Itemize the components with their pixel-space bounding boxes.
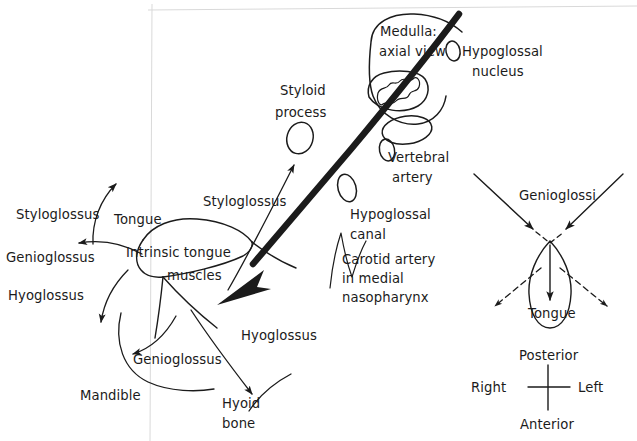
genioglossi-label: Genioglossi — [519, 188, 596, 203]
orientation-key: Posterior Right Left Anterior — [471, 348, 603, 432]
genioglossi-dashed-arrow-right — [560, 268, 607, 306]
hypoglossal-nerve-head — [217, 270, 271, 305]
tongue-label: Tongue — [113, 212, 162, 227]
intrinsic-muscles-label-line2: muscles — [167, 268, 222, 283]
hyoid-bone-label-line2: bone — [222, 416, 255, 431]
orientation-right-label: Right — [471, 380, 506, 395]
styloglossus-left-label: Styloglossus — [16, 207, 99, 222]
hypoglossal-canal-oval — [334, 172, 359, 204]
carotid-label-line2: in medial — [342, 271, 404, 286]
vertebral-artery-label-line2: artery — [392, 170, 433, 185]
genioglossi-inset: Genioglossi Tongue — [474, 174, 623, 328]
carotid-label-line3: nasopharynx — [342, 290, 429, 305]
inferior-olive-oval — [380, 113, 433, 148]
genioglossus-bottom-label: Genioglossus — [133, 352, 222, 367]
genioglossi-dashed-arrow-left — [495, 268, 541, 306]
vertebral-artery-label-line1: Vertebral — [388, 150, 449, 165]
styloglossus-right-label: Styloglossus — [203, 194, 286, 209]
intrinsic-muscles-label-line1: Intrinsic tongue — [126, 245, 231, 260]
hypoglossal-nucleus-oval — [444, 40, 462, 62]
hypoglossal-canal-label-line1: Hypoglossal — [350, 207, 431, 222]
styloid-process-label-line1: Styloid — [280, 83, 326, 98]
scan-edge-top — [148, 6, 637, 10]
diagram-svg: Medulla: axial view Hypoglossal nucleus … — [0, 0, 637, 441]
carotid-label-line1: Carotid artery — [342, 252, 435, 267]
tongue-inset-label: Tongue — [527, 306, 576, 321]
medulla-label-line1: Medulla: — [380, 24, 437, 39]
genioglossus-left-label: Genioglossus — [6, 250, 95, 265]
hypoglossal-nucleus-label-line1: Hypoglossal — [462, 44, 543, 59]
styloid-process-label-line2: process — [275, 105, 326, 120]
hyoglossus-left-label: Hyoglossus — [8, 288, 84, 303]
scan-edge-lines — [148, 4, 637, 441]
orientation-anterior-label: Anterior — [520, 417, 575, 432]
mandible-label: Mandible — [80, 388, 141, 403]
hypoglossal-canal-label-line2: canal — [350, 227, 386, 242]
diagram-canvas: Medulla: axial view Hypoglossal nucleus … — [0, 0, 637, 441]
orientation-left-label: Left — [578, 380, 603, 395]
genioglossus-arrow-bottom — [133, 316, 176, 354]
hyoglossus-right-label: Hyoglossus — [241, 328, 317, 343]
hyoid-bone-label-line1: Hyoid — [222, 396, 260, 411]
hypoglossal-nucleus-label-line2: nucleus — [472, 64, 524, 79]
hyoglossus-arrow-left — [101, 270, 128, 322]
styloid-process-oval — [283, 119, 317, 157]
orientation-posterior-label: Posterior — [519, 348, 579, 363]
